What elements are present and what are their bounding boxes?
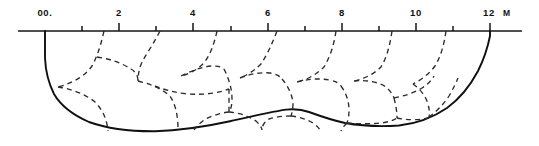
figure-svg-canvas: 00. 2 4 6 8 10 12 M <box>0 0 539 146</box>
slip-line-arc-4 <box>138 31 160 81</box>
cross-section-figure: 00. 2 4 6 8 10 12 M <box>0 0 539 146</box>
axis-tick-label-6: 6 <box>265 7 271 18</box>
slip-line-arc-30 <box>397 117 429 120</box>
excavation-boundary-outline <box>45 31 490 131</box>
slip-line-arc-25 <box>394 98 397 118</box>
slip-line-arc-26 <box>394 76 434 98</box>
slip-line-arc-8 <box>224 69 232 112</box>
axis-unit-label: M <box>503 8 510 18</box>
slip-line-arc-6 <box>181 31 217 76</box>
slip-line-arc-19 <box>297 79 341 86</box>
slip-line-arc-16 <box>291 116 320 130</box>
slip-line-network <box>58 31 458 131</box>
slip-line-arc-20 <box>341 86 349 123</box>
axis-tick-label-2: 2 <box>116 7 122 18</box>
axis-tick-label-4: 4 <box>190 7 196 18</box>
axis-tick-label-group: 00. 2 4 6 8 10 12 M <box>37 7 510 18</box>
slip-line-arc-3 <box>97 57 138 81</box>
slip-line-arc-24 <box>354 81 394 98</box>
slip-line-arc-5 <box>138 81 178 130</box>
slip-line-arc-18 <box>297 31 336 82</box>
axis-tick-label-12: 12 <box>483 7 495 18</box>
slip-line-arc-17 <box>262 116 291 130</box>
slip-line-arc-22 <box>341 123 347 131</box>
slip-line-arc-2 <box>58 87 108 131</box>
slip-line-arc-1 <box>58 31 104 87</box>
slip-line-arc-23 <box>354 31 392 81</box>
slip-line-arc-21 <box>347 118 397 124</box>
axis-tick-label-0: 00. <box>37 7 52 18</box>
axis-tick-label-8: 8 <box>339 7 345 18</box>
axis-tick-marks <box>82 23 490 31</box>
slip-line-arc-14 <box>240 73 282 79</box>
axis-tick-label-10: 10 <box>410 7 422 18</box>
slip-line-arc-13 <box>240 31 277 78</box>
slip-line-arc-27 <box>413 31 446 84</box>
